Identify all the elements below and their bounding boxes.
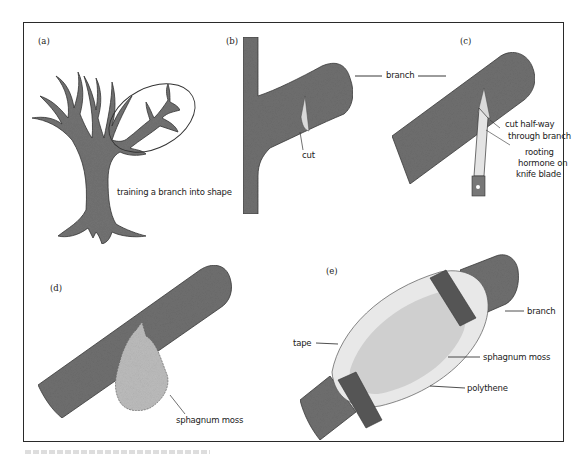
branch-moss-illustration (38, 265, 232, 418)
label-training-branch: training a branch into shape (117, 187, 232, 197)
wrapped-branch-illustration (300, 255, 524, 440)
label-rooting-3: knife blade (516, 169, 561, 179)
panel-letter-b: (b) (226, 36, 238, 46)
label-tape: tape (293, 338, 311, 348)
panel-letter-c: (c) (460, 36, 471, 46)
label-branch-e: branch (527, 306, 555, 316)
label-cut: cut (302, 150, 315, 160)
panel-letter-e: (e) (326, 266, 338, 276)
label-cut-halfway-1: cut half-way (505, 119, 565, 129)
figure-caption-illegible (25, 450, 210, 454)
label-branch: branch (386, 70, 414, 80)
label-rooting-2: hormone on (518, 158, 567, 168)
label-sphagnum-moss-d: sphagnum moss (176, 415, 243, 425)
label-rooting-1: rooting (525, 147, 554, 157)
label-cut-halfway-2: through branch (508, 131, 571, 141)
label-sphagnum-moss-e: sphagnum moss (483, 352, 550, 362)
panel-letter-d: (d) (50, 283, 62, 293)
label-polythene: polythene (467, 383, 508, 393)
tree-illustration (32, 72, 180, 244)
branch-cut-illustration (243, 37, 353, 214)
panel-letter-a: (a) (38, 36, 50, 46)
